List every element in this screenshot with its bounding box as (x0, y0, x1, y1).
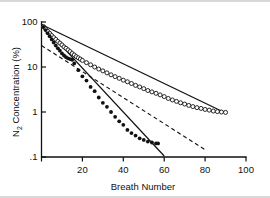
data-point-open (109, 73, 113, 77)
data-point-open (80, 58, 84, 62)
x-axis-title: Breath Number (111, 181, 175, 192)
data-point-filled (125, 128, 129, 132)
data-point-open (142, 87, 146, 91)
data-point-open (129, 81, 133, 85)
data-point-open (187, 103, 191, 107)
data-point-filled (121, 123, 125, 127)
data-point-open (138, 85, 142, 89)
x-tick-label: 80 (200, 164, 211, 175)
x-tick-label: 20 (77, 164, 88, 175)
data-point-open (154, 91, 158, 95)
data-point-open (215, 110, 219, 114)
data-point-filled (113, 115, 117, 119)
data-point-filled (156, 142, 160, 146)
data-point-open (93, 65, 97, 69)
top-border-band (0, 0, 270, 2)
data-point-filled (89, 85, 93, 89)
data-point-open (105, 71, 109, 75)
data-point-filled (134, 134, 138, 138)
y-tick-label: 1 (32, 106, 37, 117)
data-point-open (179, 101, 183, 105)
x-tick-label: 100 (238, 164, 254, 175)
data-point-filled (97, 96, 101, 100)
data-point-open (219, 110, 223, 114)
x-tick-label: 60 (159, 164, 170, 175)
data-point-open (113, 75, 117, 79)
data-point-filled (130, 131, 134, 135)
data-point-filled (44, 28, 48, 32)
data-point-filled (42, 25, 46, 29)
y-tick-label: .1 (30, 151, 38, 162)
data-point-filled (85, 79, 89, 83)
data-point-open (121, 78, 125, 82)
data-point-open (224, 110, 228, 114)
data-point-open (146, 89, 150, 93)
data-point-open (183, 102, 187, 106)
data-point-open (211, 109, 215, 113)
data-point-open (150, 90, 154, 94)
data-point-filled (76, 68, 80, 72)
data-point-open (158, 93, 162, 97)
data-point-open (84, 61, 88, 65)
data-point-filled (142, 138, 146, 142)
data-point-filled (146, 140, 150, 144)
data-point-open (162, 95, 166, 99)
data-point-open (166, 96, 170, 100)
data-point-open (117, 76, 121, 80)
data-point-filled (101, 101, 105, 105)
data-point-open (134, 83, 138, 87)
data-point-filled (117, 119, 121, 123)
data-point-open (89, 63, 93, 67)
data-point-open (203, 107, 207, 111)
semilog-washout-plot: 20406080100 100101.1 Breath Number N2 Co… (0, 0, 270, 198)
data-point-open (97, 67, 101, 71)
data-point-filled (150, 141, 154, 145)
svg-text:N2 Concentration (%): N2 Concentration (%) (10, 47, 23, 137)
data-point-filled (93, 89, 97, 93)
y-tick-label: 100 (22, 16, 38, 27)
data-point-open (174, 99, 178, 103)
data-point-open (207, 108, 211, 112)
data-point-open (199, 106, 203, 110)
data-point-open (125, 80, 129, 84)
data-point-filled (81, 74, 85, 78)
chart-figure: 20406080100 100101.1 Breath Number N2 Co… (0, 0, 270, 198)
data-point-filled (105, 105, 109, 109)
data-point-open (101, 69, 105, 73)
y-axis-title: N2 Concentration (%) (10, 47, 23, 137)
data-point-filled (50, 38, 54, 42)
data-point-open (170, 98, 174, 102)
y-tick-label: 10 (27, 61, 38, 72)
x-tick-label: 40 (118, 164, 129, 175)
data-point-filled (109, 110, 113, 114)
data-point-filled (72, 62, 76, 66)
bottom-border-band (0, 196, 270, 198)
plot-background (0, 0, 270, 198)
data-point-filled (138, 136, 142, 140)
data-point-filled (70, 58, 74, 62)
data-point-open (191, 105, 195, 109)
data-point-open (195, 106, 199, 110)
